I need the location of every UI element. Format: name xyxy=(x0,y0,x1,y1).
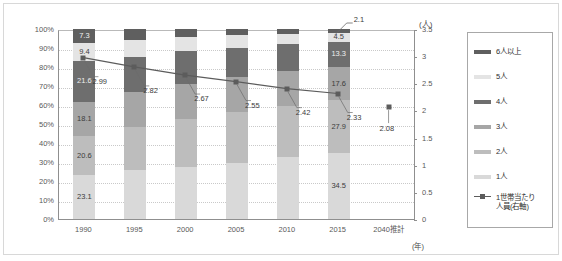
bar-segment xyxy=(277,71,299,106)
stacked-bar xyxy=(124,29,146,219)
legend-swatch xyxy=(474,75,491,79)
legend-item-3[interactable]: 4人 xyxy=(474,89,552,114)
legend-item-2[interactable]: 5人 xyxy=(474,64,552,89)
bar-segment-label: 13.3 xyxy=(328,50,350,58)
legend-swatch xyxy=(474,150,491,154)
legend: 6人以上5人4人3人2人1人1世帯当たり 人員(右軸) xyxy=(467,32,553,228)
right-axis-tickmark xyxy=(414,166,417,167)
right-axis-tickmark xyxy=(414,57,417,58)
bar-segment xyxy=(124,170,146,219)
bar-segment xyxy=(124,40,146,57)
bar-segment xyxy=(277,34,299,44)
line-point-label: 2.08 xyxy=(380,125,395,133)
bar-segment-label: 7.3 xyxy=(73,32,95,40)
bar-segment xyxy=(175,37,197,52)
plot-area: 23.120.618.121.69.47.334.527.917.613.34.… xyxy=(58,30,414,220)
bar-segment xyxy=(328,29,350,33)
right-axis-tick-label: 2 xyxy=(422,107,426,115)
bar-segment-label: 18.1 xyxy=(73,115,95,123)
left-axis-tick-label: 50% xyxy=(22,121,54,129)
x-axis-tick-label: 2000 xyxy=(157,226,213,234)
bar-segment: 18.1 xyxy=(73,102,95,136)
bar-segment xyxy=(226,29,248,35)
bar-segment xyxy=(226,48,248,77)
bar-segment xyxy=(175,51,197,83)
bar-segment xyxy=(175,29,197,37)
right-axis-tickmark xyxy=(414,220,417,221)
bar-segment-label: 23.1 xyxy=(73,193,95,201)
legend-item-1[interactable]: 6人以上 xyxy=(474,39,552,64)
stacked-bar: 23.120.618.121.69.47.3 xyxy=(73,29,95,219)
stacked-bar: 34.527.917.613.34.5 xyxy=(328,29,350,219)
bar-segment: 4.5 xyxy=(328,33,350,42)
x-axis-tick-label: 1995 xyxy=(106,226,162,234)
left-axis-tick-label: 30% xyxy=(22,159,54,167)
bar-segment xyxy=(124,29,146,40)
bar-segment xyxy=(277,29,299,34)
legend-swatch xyxy=(474,175,491,179)
x-axis-unit-label: (年) xyxy=(412,240,424,251)
legend-item-line-series[interactable]: 1世帯当たり 人員(右軸) xyxy=(474,189,552,219)
bar-segment: 7.3 xyxy=(73,29,95,43)
stacked-bar xyxy=(175,29,197,219)
right-axis-tick-label: 0.5 xyxy=(422,189,432,197)
legend-item-label: 4人 xyxy=(496,97,507,106)
bar-segment xyxy=(124,92,146,127)
left-axis-tick-label: 80% xyxy=(22,64,54,72)
stacked-bar xyxy=(226,29,248,219)
line-point-label: 2.99 xyxy=(92,78,107,86)
right-axis-unit-label: (人) xyxy=(419,18,432,29)
legend-swatch xyxy=(474,125,491,129)
line-point-label: 2.33 xyxy=(347,114,362,122)
legend-line-marker-swatch xyxy=(474,193,491,199)
legend-item-6[interactable]: 1人 xyxy=(474,164,552,189)
bar-segment xyxy=(226,35,248,48)
left-axis-tick-label: 70% xyxy=(22,83,54,91)
bar-segment xyxy=(226,163,248,219)
legend-item-label: 1人 xyxy=(496,172,507,181)
legend-swatch xyxy=(474,50,491,54)
right-axis-tick-label: 3 xyxy=(422,53,426,61)
bar-segment: 20.6 xyxy=(73,136,95,175)
left-axis-tick-label: 40% xyxy=(22,140,54,148)
left-axis-tick-label: 0% xyxy=(22,216,54,224)
x-axis-tick-label: 2040推計 xyxy=(361,226,417,234)
right-axis-tick-label: 1.5 xyxy=(422,135,432,143)
right-axis-tick-label: 0 xyxy=(422,216,426,224)
legend-item-label: 5人 xyxy=(496,72,507,81)
bar-segment xyxy=(175,119,197,167)
bar-segment-label: 17.6 xyxy=(328,80,350,88)
bar-segment: 9.4 xyxy=(73,43,95,61)
bar-segment xyxy=(277,44,299,71)
legend-item-4[interactable]: 3人 xyxy=(474,114,552,139)
legend-swatch xyxy=(474,100,491,104)
legend-item-5[interactable]: 2人 xyxy=(474,139,552,164)
line-point-label: 2.42 xyxy=(296,109,311,117)
legend-item-label: 2人 xyxy=(496,147,507,156)
left-axis-tick-label: 100% xyxy=(22,26,54,34)
left-axis-tick-label: 90% xyxy=(22,45,54,53)
legend-item-label: 3人 xyxy=(496,122,507,131)
bar-segment xyxy=(175,167,197,219)
bar-segment-label: 20.6 xyxy=(73,152,95,160)
bar-segment: 23.1 xyxy=(73,175,95,219)
right-axis-tickmark xyxy=(414,139,417,140)
left-axis-tick-label: 20% xyxy=(22,178,54,186)
legend-item-label: 6人以上 xyxy=(496,47,521,56)
bar-segment: 34.5 xyxy=(328,153,350,219)
legend-item-label: 1世帯当たり 人員(右軸) xyxy=(496,193,535,212)
right-axis-tickmark xyxy=(414,30,417,31)
x-axis-tick-label: 2005 xyxy=(208,226,264,234)
right-axis-tickmark xyxy=(414,193,417,194)
x-axis-tick-label: 2010 xyxy=(259,226,315,234)
line-point-label: 2.67 xyxy=(194,95,209,103)
right-axis-tick-label: 1 xyxy=(422,162,426,170)
bar-segment xyxy=(226,112,248,163)
bar-segment-label: 9.4 xyxy=(73,48,95,56)
bar-segment: 13.3 xyxy=(328,42,350,67)
x-axis-tick-label: 1990 xyxy=(55,226,111,234)
right-axis-tickmark xyxy=(414,111,417,112)
bar-segment-label: 34.5 xyxy=(328,182,350,190)
line-point-label: 2.82 xyxy=(143,87,158,95)
left-axis-tick-label: 10% xyxy=(22,197,54,205)
